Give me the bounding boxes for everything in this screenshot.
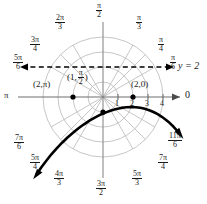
angle-330-denominator: 6 xyxy=(168,140,182,149)
angle-45-denominator: 4 xyxy=(158,44,164,53)
angle-label-7pi-over-6: 7π 6 xyxy=(14,134,24,151)
annotation-point-right: (2,0) xyxy=(131,80,148,89)
angle-60-numerator: π xyxy=(136,14,142,22)
angle-90-numerator: π xyxy=(96,2,102,10)
axis-label-zero: 0 xyxy=(185,90,190,100)
angle-135-numerator: 3π xyxy=(30,36,40,44)
angle-315-denominator: 4 xyxy=(158,162,168,171)
polar-plot-canvas xyxy=(0,0,207,204)
angle-label-3pi-over-4: 3π 4 xyxy=(30,36,40,53)
point-marker-left xyxy=(70,94,75,99)
angle-270-denominator: 2 xyxy=(96,188,106,197)
angle-label-4pi-over-3: 4π 3 xyxy=(54,170,64,187)
angle-210-denominator: 6 xyxy=(14,142,24,151)
annotation-point-top: (1, π 2 ) xyxy=(67,69,88,86)
angle-300-numerator: 5π xyxy=(132,170,142,178)
angle-30-numerator: π xyxy=(170,54,176,62)
angle-label-pi-over-3: π 3 xyxy=(136,14,142,31)
angle-225-numerator: 5π xyxy=(30,154,40,162)
annotation-top-denominator: 2 xyxy=(78,77,84,86)
radial-tick-label-1: 1 xyxy=(115,100,119,108)
angle-240-denominator: 3 xyxy=(54,178,64,187)
angle-label-pi-over-2: π 2 xyxy=(96,2,102,19)
angle-45-numerator: π xyxy=(158,36,164,44)
angle-225-denominator: 4 xyxy=(30,162,40,171)
angle-60-denominator: 3 xyxy=(136,22,142,31)
angle-150-numerator: 5π xyxy=(13,54,23,62)
angle-label-5pi-over-6: 5π 6 xyxy=(13,54,23,71)
annotation-top-close: ) xyxy=(85,73,88,82)
angle-210-numerator: 7π xyxy=(14,134,24,142)
directrix-label: y = 2 xyxy=(178,61,199,71)
annotation-top-numerator: π xyxy=(78,69,84,77)
angle-label-2pi-over-3: 2π 3 xyxy=(55,14,65,31)
angle-label-pi-over-6: π 6 xyxy=(170,54,176,71)
radial-tick-label-4: 4 xyxy=(160,100,164,108)
angle-label-3pi-over-2: 3π 2 xyxy=(96,180,106,197)
axis-arrow-head-icon xyxy=(172,94,180,101)
angle-30-denominator: 6 xyxy=(170,62,176,71)
angle-label-pi-over-4: π 4 xyxy=(158,36,164,53)
angle-120-numerator: 2π xyxy=(55,14,65,22)
angle-240-numerator: 4π xyxy=(54,170,64,178)
angle-150-denominator: 6 xyxy=(13,62,23,71)
annotation-point-left: (2,π) xyxy=(33,80,50,89)
angle-label-11pi-over-6: 11π 6 xyxy=(168,132,182,149)
angle-330-numerator: 11π xyxy=(168,132,182,140)
axis-label-pi: π xyxy=(4,91,9,100)
angle-300-denominator: 3 xyxy=(132,178,142,187)
radial-tick-label-2: 2 xyxy=(130,100,134,108)
angle-label-7pi-over-4: 7π 4 xyxy=(158,154,168,171)
radial-tick-label-3: 3 xyxy=(145,100,149,108)
angle-315-numerator: 7π xyxy=(158,154,168,162)
angle-270-numerator: 3π xyxy=(96,180,106,188)
angle-135-denominator: 4 xyxy=(30,44,40,53)
annotation-top-open: (1, xyxy=(67,73,77,82)
polar-plot-figure: π 2 2π 3 3π 4 5π 6 π 3 π 4 xyxy=(0,0,207,204)
angle-120-denominator: 3 xyxy=(55,22,65,31)
angle-90-denominator: 2 xyxy=(96,10,102,19)
point-marker-top xyxy=(100,110,105,115)
angle-label-5pi-over-3: 5π 3 xyxy=(132,170,142,187)
angle-label-5pi-over-4: 5π 4 xyxy=(30,154,40,171)
